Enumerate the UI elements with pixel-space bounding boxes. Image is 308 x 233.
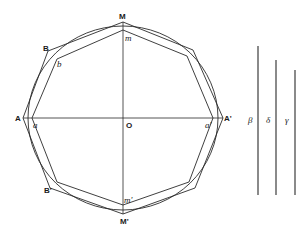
- label-B-prime: B': [44, 186, 52, 195]
- label-O: O: [126, 121, 132, 130]
- label-M: M: [119, 12, 126, 21]
- label-a-prime: a': [205, 120, 213, 130]
- label-a: a: [33, 120, 38, 130]
- label-beta: β: [247, 115, 253, 125]
- label-A-prime: A': [224, 114, 232, 123]
- label-B: B: [43, 44, 49, 53]
- label-delta: δ: [266, 115, 271, 125]
- label-A: A: [15, 114, 21, 123]
- label-m-prime: m': [124, 195, 133, 205]
- label-gamma: γ: [285, 115, 289, 125]
- label-b: b: [57, 59, 62, 69]
- geometry-diagram: M m B b A a O a' A' B' m' M' β δ γ: [0, 0, 308, 233]
- inner-octagon: [32, 30, 213, 205]
- label-m: m: [125, 33, 132, 43]
- label-M-prime: M': [120, 217, 129, 226]
